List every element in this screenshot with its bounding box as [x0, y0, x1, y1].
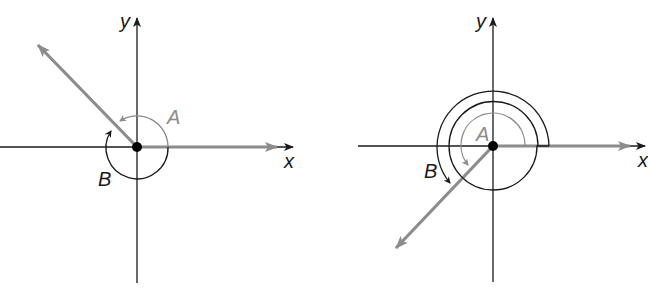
left-x-label: x	[283, 150, 295, 172]
left-angle-b-label: B	[98, 168, 111, 190]
right-y-label: y	[474, 10, 487, 32]
diagram-canvas: y x A B y x A B	[0, 0, 648, 293]
right-terminal-ray	[396, 146, 493, 248]
left-angle-a-arc	[120, 116, 168, 147]
right-x-label: x	[637, 149, 648, 171]
left-origin-point	[132, 142, 142, 152]
right-figure: y x A B	[358, 10, 648, 282]
left-y-label: y	[118, 10, 131, 32]
left-angle-a-label: A	[166, 106, 180, 128]
right-origin-point	[488, 141, 498, 151]
left-terminal-ray	[38, 45, 137, 147]
right-angle-a-label: A	[475, 123, 489, 145]
right-angle-b-label: B	[424, 160, 437, 182]
left-figure: y x A B	[0, 10, 295, 283]
